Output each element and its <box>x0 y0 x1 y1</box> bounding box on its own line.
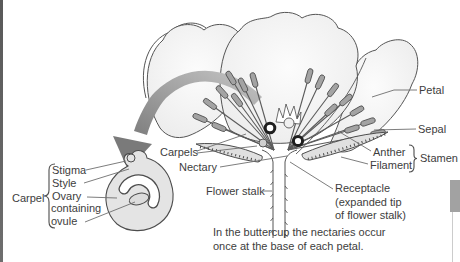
leader-stigma <box>86 161 126 170</box>
label-receptacle: Receptacle (expanded tip of flower stalk… <box>335 182 406 223</box>
label-nectary: Nectary <box>179 161 217 173</box>
label-petal: Petal <box>419 84 444 96</box>
leader-filament <box>341 157 368 164</box>
label-stamen: Stamen <box>420 152 458 164</box>
anther-shape <box>211 122 227 133</box>
label-ovary: Ovary <box>52 190 81 202</box>
label-stigma: Stigma <box>52 164 86 176</box>
figure-caption: In the buttercup the nectaries occur onc… <box>213 226 385 253</box>
carpel-detail-drawing <box>106 151 173 231</box>
carpel-ring <box>293 136 302 145</box>
carpel-circle-light <box>284 118 294 128</box>
label-carpel-group: Carpel <box>12 192 44 204</box>
label-receptacle-line3: of flower stalk) <box>335 209 406 223</box>
caption-line2: once at the base of each petal. <box>213 240 385 254</box>
label-style: Style <box>52 177 76 189</box>
label-carpels: Carpels <box>160 146 198 158</box>
stigma-knob <box>127 154 135 162</box>
caption-line1: In the buttercup the nectaries occur <box>213 226 385 240</box>
label-sepal: Sepal <box>418 123 446 135</box>
carpel-ring <box>265 123 275 133</box>
label-filament: Filament <box>370 159 412 171</box>
label-ovule: ovule <box>51 215 77 227</box>
label-containing: containing <box>51 202 101 214</box>
label-receptacle-line1: Receptacle <box>335 182 406 196</box>
leader-receptacle <box>290 162 333 189</box>
label-anther: Anther <box>373 146 405 158</box>
label-flower-stalk: Flower stalk <box>206 185 265 197</box>
carpel-detail-body <box>106 151 173 231</box>
figure-buttercup-flower: Petal Sepal Anther Filament Stamen Carpe… <box>0 0 460 262</box>
label-receptacle-line2: (expanded tip <box>335 196 406 210</box>
carpel-blob <box>259 139 267 147</box>
